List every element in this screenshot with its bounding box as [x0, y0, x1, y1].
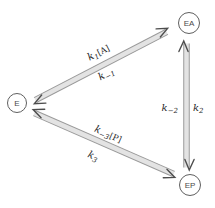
- node-e-label: E: [14, 99, 19, 108]
- edge-e-ea: k1[A] k−1: [24, 14, 176, 116]
- node-e: E: [8, 94, 27, 113]
- edge-e-ep: k−3[P] k3: [23, 97, 183, 196]
- edge-ea-ep: [179, 41, 194, 170]
- node-ea: EA: [179, 13, 200, 34]
- edge-e-ea-band: [34, 30, 168, 103]
- edge-e-ep-top-line: [35, 111, 174, 172]
- rate-label-k2: k2: [193, 102, 204, 115]
- reaction-scheme: k1[A] k−1 k−3[P] k3 k−2 k2 E: [0, 0, 215, 208]
- edge-e-ep-band: [33, 111, 174, 177]
- node-ep: EP: [180, 175, 201, 196]
- node-ep-label: EP: [185, 181, 196, 190]
- rate-label-k3: k3: [85, 149, 100, 166]
- edge-ea-ep-band: [184, 44, 190, 168]
- node-ea-label: EA: [184, 19, 195, 28]
- rate-label-k-2: k−2: [162, 102, 179, 115]
- diagram-canvas: k1[A] k−1 k−3[P] k3 k−2 k2 E: [0, 0, 215, 208]
- edge-e-ea-top-line: [34, 30, 165, 98]
